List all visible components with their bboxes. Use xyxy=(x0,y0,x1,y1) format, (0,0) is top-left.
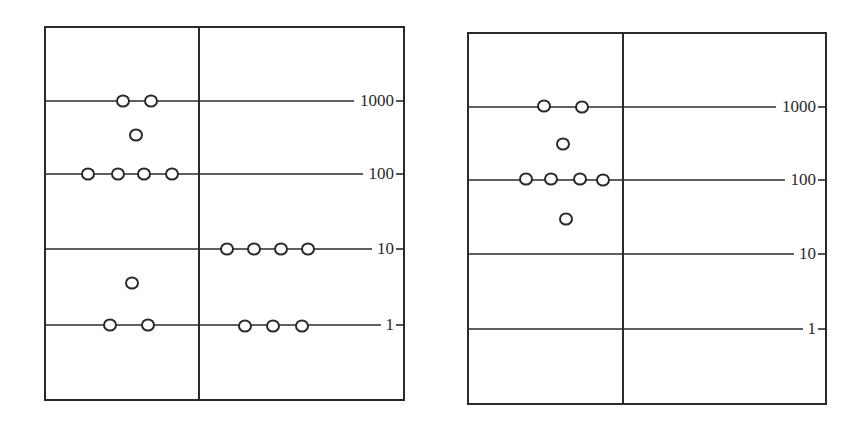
level-label-1000: 1000 xyxy=(777,98,817,115)
data-point-circle xyxy=(302,244,314,255)
panel-left xyxy=(45,27,404,400)
panel-frame xyxy=(45,27,404,400)
data-point-circle xyxy=(221,244,233,255)
level-label-10: 10 xyxy=(373,240,395,257)
data-point-circle xyxy=(296,321,308,332)
level-label-100: 100 xyxy=(364,165,395,182)
data-point-circle xyxy=(576,102,588,113)
level-label-1000: 1000 xyxy=(355,92,395,109)
level-label-1: 1 xyxy=(804,320,817,337)
level-label-10: 10 xyxy=(795,245,817,262)
panel-frame xyxy=(468,33,826,404)
level-label-100: 100 xyxy=(786,171,817,188)
data-point-circle xyxy=(166,169,178,180)
data-point-circle xyxy=(560,214,572,225)
data-point-circle xyxy=(104,320,116,331)
data-point-circle xyxy=(275,244,287,255)
data-point-circle xyxy=(112,169,124,180)
data-point-circle xyxy=(145,96,157,107)
data-point-circle xyxy=(545,174,557,185)
data-point-circle xyxy=(82,169,94,180)
panel-right xyxy=(468,33,826,404)
data-point-circle xyxy=(130,130,142,141)
level-label-1: 1 xyxy=(382,316,395,333)
data-point-circle xyxy=(574,174,586,185)
data-point-circle xyxy=(117,96,129,107)
data-point-circle xyxy=(248,244,260,255)
data-point-circle xyxy=(538,101,550,112)
data-point-circle xyxy=(126,278,138,289)
data-point-circle xyxy=(557,139,569,150)
data-point-circle xyxy=(520,174,532,185)
data-point-circle xyxy=(597,175,609,186)
data-point-circle xyxy=(267,321,279,332)
data-point-circle xyxy=(239,321,251,332)
log-scale-dot-diagram xyxy=(0,0,859,428)
data-point-circle xyxy=(138,169,150,180)
data-point-circle xyxy=(142,320,154,331)
